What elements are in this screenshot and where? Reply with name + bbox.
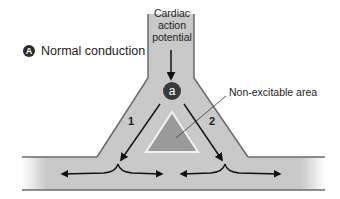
pathway-2-label: 2 <box>209 115 215 127</box>
caption-line: action <box>148 19 196 31</box>
stem-caption: Cardiac action potential <box>148 7 196 43</box>
caption-line: Cardiac <box>148 7 196 19</box>
panel-badge: A <box>23 45 35 57</box>
panel-title: Normal conduction <box>41 44 145 58</box>
panel-header: A Normal conduction <box>23 44 145 58</box>
pathway-1-label: 1 <box>128 115 134 127</box>
non-excitable-label: Non-excitable area <box>229 86 317 98</box>
node-a: a <box>163 82 181 100</box>
caption-line: potential <box>148 31 196 43</box>
